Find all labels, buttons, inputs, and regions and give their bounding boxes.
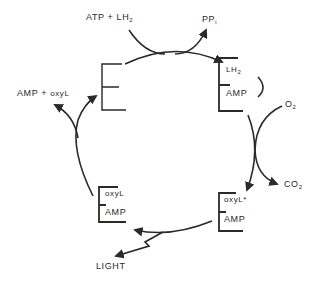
arrow-e-to-lh2amp (125, 51, 222, 64)
label-amp-2: AMP (224, 215, 245, 224)
label-amp-oxyl-tail: oxyL (50, 89, 69, 98)
arrow-ppi-out (175, 30, 206, 54)
cycle-arrows (0, 0, 318, 285)
label-amp-3: AMP (105, 208, 126, 217)
bracket-paren (258, 77, 263, 97)
label-lh2-main: LH (226, 65, 237, 74)
luciferase-cycle-diagram: ATP + LH2 PPi LH2 AMP O2 CO2 oxyL* AMP o… (0, 0, 318, 285)
label-o2-sub: 2 (293, 104, 296, 110)
label-o2: O2 (285, 100, 296, 110)
label-lh2: LH2 (226, 66, 241, 75)
label-o2-main: O (285, 99, 293, 109)
label-atp-lh2-sub: 2 (129, 17, 132, 23)
arrow-oxylstar-to-oxylamp (135, 221, 212, 233)
label-co2-sub: 2 (299, 184, 302, 190)
label-oxyl-excited: oxyL* (224, 196, 247, 204)
enzyme-free-e (102, 64, 126, 110)
arrow-o2-in (255, 106, 282, 150)
label-co2-main: CO (284, 179, 299, 189)
label-amp-oxyl-main: AMP + (17, 88, 50, 98)
arrow-lh2amp-to-oxylstar (247, 115, 255, 190)
arrow-co2-out (255, 150, 277, 184)
label-atp-lh2-main: ATP + LH (86, 12, 129, 22)
label-ppi: PPi (202, 15, 217, 25)
arrow-atp-lh2-in (129, 30, 165, 54)
label-lh2-sub: 2 (237, 69, 240, 75)
arrow-oxylamp-to-e (76, 96, 96, 196)
label-light: LIGHT (96, 262, 126, 271)
label-oxyl: oxyL (105, 190, 124, 198)
label-ppi-main: PP (202, 14, 215, 24)
label-amp-1: AMP (226, 89, 247, 98)
label-co2: CO2 (284, 180, 302, 190)
label-atp-lh2: ATP + LH2 (86, 13, 133, 23)
arrow-light-out (116, 232, 163, 256)
label-ppi-sub: i (215, 19, 216, 25)
label-amp-oxyl: AMP + oxyL (17, 89, 70, 98)
arrow-amp-oxyl-out (55, 105, 78, 138)
